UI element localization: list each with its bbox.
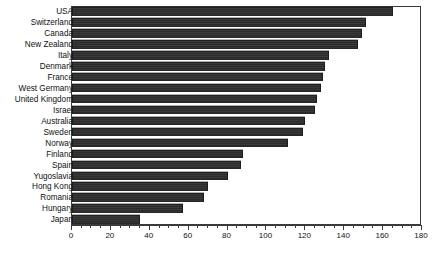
bar-category-label: Norway (45, 138, 73, 147)
x-tick-major (188, 225, 189, 230)
bar-category-label: Japan (51, 215, 73, 224)
bar-category-label: Yugoslavia (33, 171, 73, 180)
bar-category-label: France (48, 73, 73, 82)
x-tick-minor (275, 225, 276, 228)
bar-row: Sweden (0, 126, 441, 137)
bar-rows: USASwitzerlandCanadaNew ZealandItalyDenm… (0, 6, 441, 225)
x-tick-minor (353, 225, 354, 228)
bar-category-label: West Germany (19, 84, 73, 93)
x-tick-minor (363, 225, 364, 228)
x-tick-minor (168, 225, 169, 228)
x-tick-minor (392, 225, 393, 228)
bar (72, 51, 329, 59)
bar-category-label: USA (56, 7, 73, 16)
x-tick-minor (139, 225, 140, 228)
x-tick-minor (314, 225, 315, 228)
bar-row: Spain (0, 159, 441, 170)
x-tick-major (304, 225, 305, 230)
bar-category-label: Hong Kong (32, 182, 73, 191)
x-tick-minor (246, 225, 247, 228)
x-tick-label: 160 (375, 231, 388, 240)
x-tick-minor (285, 225, 286, 228)
bar-row: Denmark (0, 61, 441, 72)
bar-row: Finland (0, 148, 441, 159)
bar-row: Norway (0, 137, 441, 148)
bar (72, 40, 358, 48)
bar-category-label: New Zealand (25, 40, 73, 49)
bar-row: Romania (0, 192, 441, 203)
bar (72, 117, 305, 125)
x-tick-minor (159, 225, 160, 228)
bar-category-label: Australia (41, 116, 73, 125)
bar-row: New Zealand (0, 39, 441, 50)
x-tick-minor (100, 225, 101, 228)
bar (72, 215, 140, 223)
x-tick-label: 60 (183, 231, 192, 240)
x-tick-minor (372, 225, 373, 228)
bar (72, 149, 243, 157)
bar (72, 128, 303, 136)
x-tick-minor (197, 225, 198, 228)
bar (72, 84, 321, 92)
x-tick-label: 100 (259, 231, 272, 240)
bar (72, 171, 228, 179)
x-tick-minor (402, 225, 403, 228)
bar-row: France (0, 72, 441, 83)
x-tick-label: 140 (337, 231, 350, 240)
bar-row: USA (0, 6, 441, 17)
bar-row: Canada (0, 28, 441, 39)
x-tick-major (71, 225, 72, 230)
x-tick-minor (178, 225, 179, 228)
x-tick-major (227, 225, 228, 230)
bar-category-label: Canada (44, 29, 73, 38)
x-tick-minor (295, 225, 296, 228)
bar-row: Japan (0, 214, 441, 225)
x-tick-minor (120, 225, 121, 228)
bar-category-label: Israel (53, 105, 73, 114)
bar-row: Australia (0, 115, 441, 126)
bar (72, 95, 317, 103)
bar-row: United Kingdom (0, 94, 441, 105)
x-tick-major (382, 225, 383, 230)
x-tick-minor (81, 225, 82, 228)
x-tick-minor (217, 225, 218, 228)
bar (72, 182, 208, 190)
bar-row: Hungary (0, 203, 441, 214)
bar-category-label: Sweden (43, 127, 73, 136)
bar-category-label: Switzerland (31, 18, 73, 27)
bar (72, 29, 362, 37)
bar (72, 73, 323, 81)
bar-row: Israel (0, 104, 441, 115)
bar-category-label: United Kingdom (15, 94, 73, 103)
bar-category-label: Finland (46, 149, 73, 158)
x-tick-label: 80 (222, 231, 231, 240)
bar-category-label: Hungary (42, 204, 73, 213)
bar-row: Hong Kong (0, 181, 441, 192)
x-tick-label: 40 (144, 231, 153, 240)
bar (72, 160, 241, 168)
x-tick-minor (236, 225, 237, 228)
bar (72, 106, 315, 114)
x-tick-label: 180 (414, 231, 427, 240)
x-tick-label: 0 (69, 231, 73, 240)
bar-row: Italy (0, 50, 441, 61)
bar-row: West Germany (0, 83, 441, 94)
bar (72, 193, 204, 201)
bar (72, 204, 183, 212)
bar (72, 7, 393, 15)
x-tick-major (149, 225, 150, 230)
x-tick-major (110, 225, 111, 230)
bar (72, 139, 288, 147)
bar (72, 18, 366, 26)
x-tick-label: 20 (105, 231, 114, 240)
x-tick-minor (207, 225, 208, 228)
bar-category-label: Spain (52, 160, 73, 169)
x-tick-minor (411, 225, 412, 228)
x-tick-minor (324, 225, 325, 228)
bar-row: Switzerland (0, 17, 441, 28)
bar-category-label: Romania (40, 193, 73, 202)
chart-caption (72, 244, 402, 254)
bar-row: Yugoslavia (0, 170, 441, 181)
x-tick-minor (334, 225, 335, 228)
x-tick-major (343, 225, 344, 230)
